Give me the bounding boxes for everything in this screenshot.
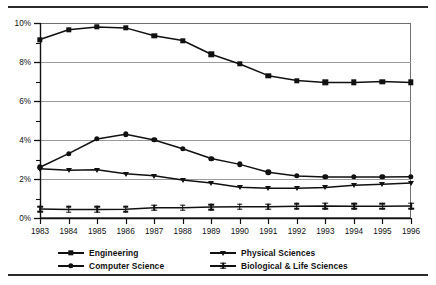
x-tick-label-1989: 1989 xyxy=(202,227,220,236)
legend-marker-triangle-down-icon xyxy=(210,247,236,258)
legend-entry-engineering[interactable]: Engineering xyxy=(58,247,210,258)
data-point-biological-and-life-sciences-1987 xyxy=(151,205,157,212)
data-point-physical-sciences-1984 xyxy=(66,168,72,173)
chart-legend: EngineeringPhysical SciencesComputer Sci… xyxy=(58,246,388,272)
y-tick-label-0pct: 0% xyxy=(0,214,31,223)
data-point-biological-and-life-sciences-1989 xyxy=(208,204,214,211)
x-tick-label-1993: 1993 xyxy=(316,227,334,236)
data-point-engineering-1992 xyxy=(294,78,299,83)
data-point-engineering-1985 xyxy=(94,24,99,29)
x-tick-label-1985: 1985 xyxy=(88,227,106,236)
data-point-engineering-1996 xyxy=(408,80,413,85)
x-tick-label-1986: 1986 xyxy=(117,227,135,236)
x-tick-label-1995: 1995 xyxy=(373,227,391,236)
data-point-biological-and-life-sciences-1994 xyxy=(351,203,357,210)
data-point-engineering-1995 xyxy=(380,79,385,84)
legend-marker-i-beam-icon xyxy=(210,260,236,271)
x-tick-label-1984: 1984 xyxy=(59,227,77,236)
data-point-physical-sciences-1988 xyxy=(180,178,186,183)
y-tick-label-10pct: 10% xyxy=(0,19,31,28)
data-point-engineering-1989 xyxy=(209,51,214,56)
legend-entry-physical-sciences[interactable]: Physical Sciences xyxy=(210,247,388,258)
x-tick-label-1983: 1983 xyxy=(31,227,49,236)
data-point-biological-and-life-sciences-1983 xyxy=(37,206,43,213)
data-point-physical-sciences-1989 xyxy=(208,181,214,186)
data-point-physical-sciences-1990 xyxy=(237,185,243,190)
data-point-physical-sciences-1985 xyxy=(94,168,100,173)
data-point-biological-and-life-sciences-1988 xyxy=(180,204,186,211)
data-point-physical-sciences-1994 xyxy=(351,183,357,188)
x-tick-label-1988: 1988 xyxy=(174,227,192,236)
data-point-engineering-1986 xyxy=(123,25,128,30)
legend-entry-computer-science[interactable]: Computer Science xyxy=(58,260,210,271)
legend-label: Physical Sciences xyxy=(241,248,315,258)
legend-label: Biological & Life Sciences xyxy=(241,261,348,271)
plot-area: 0%2%4%6%8%10% 19831984198519861987198819… xyxy=(0,0,436,240)
data-point-physical-sciences-1993 xyxy=(322,185,328,190)
data-point-biological-and-life-sciences-1985 xyxy=(94,206,100,213)
data-point-physical-sciences-1991 xyxy=(265,186,271,191)
data-point-biological-and-life-sciences-1992 xyxy=(294,203,300,210)
data-point-physical-sciences-1995 xyxy=(379,182,385,187)
data-point-physical-sciences-1983 xyxy=(37,167,43,172)
data-point-engineering-1988 xyxy=(180,38,185,43)
data-point-engineering-1987 xyxy=(151,33,156,38)
legend-marker-square-icon xyxy=(58,247,84,258)
data-point-engineering-1991 xyxy=(266,73,271,78)
y-tick-label-2pct: 2% xyxy=(0,175,31,184)
data-point-biological-and-life-sciences-1986 xyxy=(123,206,129,213)
x-tick-label-1996: 1996 xyxy=(402,227,420,236)
x-tick-label-1987: 1987 xyxy=(145,227,163,236)
bottom-divider-rule xyxy=(8,274,428,276)
data-point-physical-sciences-1986 xyxy=(123,172,129,177)
data-point-physical-sciences-1992 xyxy=(294,186,300,191)
data-point-engineering-1983 xyxy=(37,37,42,42)
data-point-engineering-1984 xyxy=(66,27,71,32)
data-point-engineering-1993 xyxy=(323,80,328,85)
data-point-biological-and-life-sciences-1990 xyxy=(237,203,243,210)
plot-svg xyxy=(0,0,436,240)
data-point-biological-and-life-sciences-1991 xyxy=(266,203,272,210)
legend-label: Computer Science xyxy=(89,261,164,271)
legend-label: Engineering xyxy=(89,248,139,258)
data-point-biological-and-life-sciences-1993 xyxy=(323,203,329,210)
legend-entry-biological-and-life-sciences[interactable]: Biological & Life Sciences xyxy=(210,260,388,271)
legend-marker-circle-icon xyxy=(58,260,84,271)
y-tick-label-4pct: 4% xyxy=(0,136,31,145)
y-tick-label-6pct: 6% xyxy=(0,97,31,106)
data-point-engineering-1990 xyxy=(237,61,242,66)
x-tick-label-1990: 1990 xyxy=(231,227,249,236)
data-point-engineering-1994 xyxy=(351,80,356,85)
chart-figure: 0%2%4%6%8%10% 19831984198519861987198819… xyxy=(0,0,436,285)
x-tick-label-1994: 1994 xyxy=(345,227,363,236)
data-point-biological-and-life-sciences-1995 xyxy=(380,203,386,210)
y-tick-label-8pct: 8% xyxy=(0,58,31,67)
data-point-physical-sciences-1987 xyxy=(151,174,157,179)
data-point-biological-and-life-sciences-1996 xyxy=(408,203,414,210)
x-tick-label-1992: 1992 xyxy=(288,227,306,236)
x-tick-label-1991: 1991 xyxy=(259,227,277,236)
data-point-biological-and-life-sciences-1984 xyxy=(66,206,72,213)
data-point-physical-sciences-1996 xyxy=(408,181,414,186)
